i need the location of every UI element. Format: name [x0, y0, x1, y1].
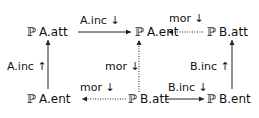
label-top-right-arrow: mor ↓ — [169, 13, 204, 25]
label-top-left-arrow: A.inc ↓ — [80, 15, 120, 27]
powerset-symbol: ℙ — [27, 92, 36, 106]
powerset-symbol: ℙ — [128, 92, 137, 106]
node-label: B.ent — [219, 92, 251, 106]
powerset-symbol: ℙ — [135, 25, 144, 39]
label-bottom-left-arrow: mor ↓ — [80, 82, 115, 94]
node-label: B.att — [219, 25, 248, 39]
label-right-arrow: B.inc ↑ — [190, 61, 230, 73]
node-label: A.att — [39, 25, 68, 39]
node-top-right: ℙB.att — [207, 25, 248, 39]
node-label: A.ent — [147, 25, 179, 39]
powerset-symbol: ℙ — [27, 25, 36, 39]
node-bottom-mid: ℙB.att — [128, 92, 169, 106]
node-top-left: ℙA.att — [27, 25, 68, 39]
node-bottom-right: ℙB.ent — [207, 92, 251, 106]
label-bottom-right-arrow: B.inc ↓ — [168, 82, 208, 94]
node-top-mid: ℙA.ent — [135, 25, 179, 39]
label-left-arrow: A.inc ↑ — [7, 61, 47, 73]
node-bottom-left: ℙA.ent — [27, 92, 71, 106]
node-label: B.att — [140, 92, 169, 106]
powerset-symbol: ℙ — [207, 25, 216, 39]
powerset-symbol: ℙ — [207, 92, 216, 106]
label-mid-arrow: mor ↓ — [105, 61, 140, 73]
node-label: A.ent — [39, 92, 71, 106]
